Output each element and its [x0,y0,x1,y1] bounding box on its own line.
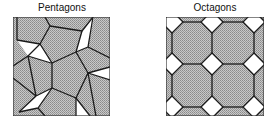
tiling-figure [0,0,277,128]
octagon-tiling [161,11,265,118]
pentagon-tiling [13,17,110,116]
octagons-title: Octagons [190,2,240,13]
pentagons-title: Pentagons [36,2,88,13]
